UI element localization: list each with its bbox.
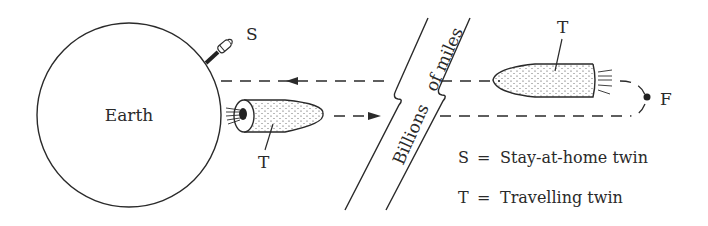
return-rocket: T xyxy=(493,17,612,97)
arrow-right-icon xyxy=(368,112,381,120)
arrow-left-icon xyxy=(286,77,298,85)
legend-meaning: Stay-at-home twin xyxy=(500,148,648,167)
turnaround-upper-curve xyxy=(620,81,645,95)
stay-at-home-rocket: S xyxy=(206,24,258,63)
distance-band-label: Billions of miles xyxy=(388,24,466,167)
legend-item-t: T = Travelling twin xyxy=(458,188,623,207)
stay-at-home-label: S xyxy=(246,24,258,44)
outbound-rocket: T xyxy=(226,100,323,172)
launch-tower-icon xyxy=(206,52,218,63)
turnaround: F xyxy=(620,81,672,116)
return-rocket-label: T xyxy=(557,17,569,37)
outbound-rocket-label: T xyxy=(258,152,270,172)
twin-paradox-diagram: Earth S F xyxy=(0,0,708,226)
earth: Earth xyxy=(37,23,221,207)
rocket-icon xyxy=(217,37,235,54)
legend-item-s: S = Stay-at-home twin xyxy=(458,148,648,167)
legend-symbol: T xyxy=(458,188,469,207)
turnaround-point-marker xyxy=(644,94,651,101)
legend: S = Stay-at-home twin T = Travelling twi… xyxy=(458,148,648,207)
legend-meaning: Travelling twin xyxy=(500,188,623,207)
exhaust-icon xyxy=(598,70,612,94)
legend-equals: = xyxy=(477,148,490,167)
turnaround-lower-curve xyxy=(630,104,645,116)
return-path xyxy=(221,77,500,85)
earth-label: Earth xyxy=(105,105,154,125)
turnaround-label: F xyxy=(660,89,672,109)
legend-equals: = xyxy=(477,188,490,207)
outbound-path xyxy=(334,112,630,120)
legend-symbol: S xyxy=(458,148,469,167)
distance-band: Billions of miles xyxy=(345,18,470,210)
